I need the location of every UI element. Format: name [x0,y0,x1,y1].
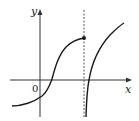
function-graph: y x 0 [0,0,139,121]
y-axis-arrow-icon [38,9,43,15]
closed-point [82,36,86,40]
graph-canvas [0,0,139,121]
x-axis-label: x [125,84,131,95]
x-axis-arrow-icon [126,78,132,83]
left-branch-curve [12,38,84,106]
right-branch-curve [86,23,124,117]
y-axis-label: y [31,6,37,17]
origin-label: 0 [32,84,38,94]
